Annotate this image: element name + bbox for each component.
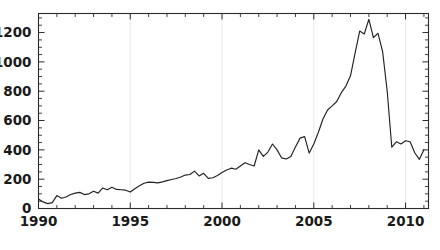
y-tick-label: 800 [3,83,31,99]
x-tick-label: 1995 [111,213,149,229]
x-tick-label: 2010 [387,213,425,229]
y-tick-label: 1200 [0,24,32,40]
line-chart: 19901995200020052010 0200400600800100012… [0,0,440,250]
y-tick-label: 1000 [0,54,32,70]
x-tick-label: 2005 [295,213,333,229]
x-tick-label: 2000 [203,213,241,229]
chart-figure: 19901995200020052010 0200400600800100012… [0,0,440,250]
y-tick-label: 600 [3,112,31,128]
y-tick-label: 0 [22,200,31,216]
y-tick-label: 200 [3,171,31,187]
y-tick-label: 400 [3,142,31,158]
